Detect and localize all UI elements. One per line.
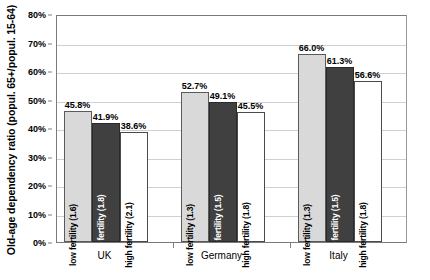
bar-uk-low[interactable]: low fertility (1.6) xyxy=(64,111,92,242)
y-axis-tick-40: 40% xyxy=(28,124,46,134)
y-axis-title-text: Old-age dependency ratio (popul. 65+/pop… xyxy=(5,5,17,255)
y-axis-tickmark xyxy=(48,129,52,130)
bar-value-label: 45.5% xyxy=(238,101,264,111)
bar-value-label: 52.7% xyxy=(182,81,208,91)
bar-germany-low[interactable]: low fertility (1.3) xyxy=(181,92,209,242)
y-axis-tick-70: 70% xyxy=(28,39,46,49)
y-axis-tickmark xyxy=(48,100,52,101)
x-axis-label-italy: Italy xyxy=(329,250,347,261)
bar-germany-high[interactable]: high fertility (1.8) xyxy=(237,112,265,242)
bar-value-label: 41.9% xyxy=(93,112,119,122)
bar-italy-baseline[interactable]: baseline fertility (1.5) xyxy=(326,67,354,242)
y-axis-tickmark xyxy=(48,214,52,215)
y-axis-tick-labels: 0%10%20%30%40%50%60%70%80% xyxy=(22,15,52,243)
y-axis-tick-50: 50% xyxy=(28,96,46,106)
y-axis-tick-30: 30% xyxy=(28,153,46,163)
y-axis-tick-60: 60% xyxy=(28,67,46,77)
bar-uk-baseline[interactable]: baseline fertility (1.8) xyxy=(92,123,120,242)
y-axis-tickmark xyxy=(48,15,52,16)
bar-value-label: 38.6% xyxy=(121,121,147,131)
bar-value-label: 56.6% xyxy=(355,70,381,80)
y-axis-tickmark xyxy=(48,157,52,158)
bar-group-italy: low fertility (1.3)66.0%baseline fertili… xyxy=(291,16,408,242)
y-axis-tickmark xyxy=(48,72,52,73)
chart-container: Old-age dependency ratio (popul. 65+/pop… xyxy=(0,0,430,280)
y-axis-tick-10: 10% xyxy=(28,210,46,220)
bar-value-label: 61.3% xyxy=(327,56,353,66)
y-axis-tickmark xyxy=(48,43,52,44)
x-axis-label-germany: Germany xyxy=(201,250,242,261)
bar-value-label: 49.1% xyxy=(210,91,236,101)
x-axis-tickmark xyxy=(290,243,291,248)
bar-italy-high[interactable]: high fertility (1.8) xyxy=(354,81,382,242)
plot-area: low fertility (1.6)45.8%baseline fertili… xyxy=(56,15,407,243)
bar-group-uk: low fertility (1.6)45.8%baseline fertili… xyxy=(57,16,174,242)
bar-group-germany: low fertility (1.3)52.7%baseline fertili… xyxy=(174,16,291,242)
bar-value-label: 66.0% xyxy=(299,43,325,53)
bar-italy-low[interactable]: low fertility (1.3) xyxy=(298,54,326,242)
x-axis-label-uk: UK xyxy=(98,250,112,261)
bar-value-label: 45.8% xyxy=(65,100,91,110)
y-axis-title: Old-age dependency ratio (popul. 65+/pop… xyxy=(0,0,22,260)
y-axis-tickmark xyxy=(48,186,52,187)
bar-germany-baseline[interactable]: baseline fertility (1.5) xyxy=(209,102,237,242)
y-axis-tickmark xyxy=(48,243,52,244)
x-axis-tickmark xyxy=(173,243,174,248)
bar-uk-high[interactable]: high fertility (2.1) xyxy=(120,132,148,242)
x-axis-tick-labels: UKGermanyItaly xyxy=(56,248,407,268)
y-axis-tick-80: 80% xyxy=(28,10,46,20)
y-axis-tick-20: 20% xyxy=(28,181,46,191)
y-axis-tick-0: 0% xyxy=(33,238,46,248)
